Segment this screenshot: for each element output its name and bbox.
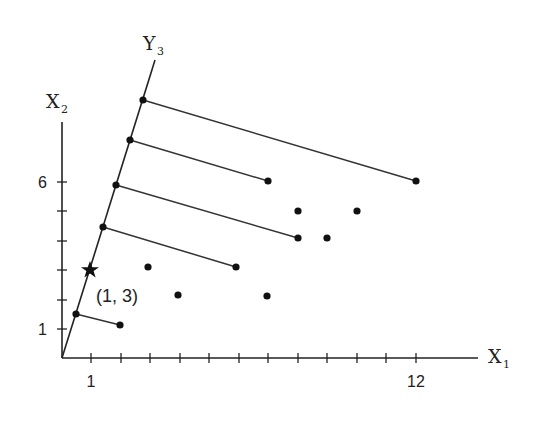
x2-axis-label: X 2	[46, 90, 68, 116]
data-point	[294, 207, 301, 214]
projection-line	[76, 314, 120, 325]
projected-point	[139, 96, 146, 103]
data-point	[294, 234, 301, 241]
svg-text:3: 3	[157, 45, 164, 58]
annotation-label: (1, 3)	[96, 286, 138, 306]
svg-text:1: 1	[503, 358, 510, 371]
projection-diagram: (1, 3) 1 12 1 6 X 1 X 2 Y 3	[0, 0, 539, 424]
x1-axis-label: X 1	[488, 345, 510, 371]
projection-line	[143, 100, 416, 181]
data-point	[412, 177, 419, 184]
data-point	[323, 234, 330, 241]
projected-point	[112, 181, 119, 188]
data-point	[144, 263, 151, 270]
y3-axis-label: Y 3	[142, 32, 164, 58]
data-point	[174, 291, 181, 298]
projected-point	[99, 223, 106, 230]
projection-line	[103, 227, 236, 267]
svg-text:2: 2	[61, 103, 68, 116]
data-point	[264, 177, 271, 184]
data-point	[353, 207, 360, 214]
data-point	[116, 321, 123, 328]
projection-line	[116, 185, 298, 238]
x2-tick-label-1: 1	[38, 321, 47, 338]
data-point	[263, 292, 270, 299]
x2-tick-label-6: 6	[38, 174, 47, 191]
star-icon	[81, 261, 99, 278]
svg-text:X: X	[488, 345, 502, 367]
x1-tick-label-12: 12	[407, 373, 425, 390]
data-points	[116, 177, 419, 328]
svg-text:Y: Y	[142, 32, 156, 54]
projected-point	[72, 310, 79, 317]
projection-line	[130, 140, 268, 181]
svg-text:X: X	[46, 90, 60, 112]
projected-point	[126, 136, 133, 143]
data-point	[232, 263, 239, 270]
x1-tick-label-1: 1	[87, 373, 96, 390]
